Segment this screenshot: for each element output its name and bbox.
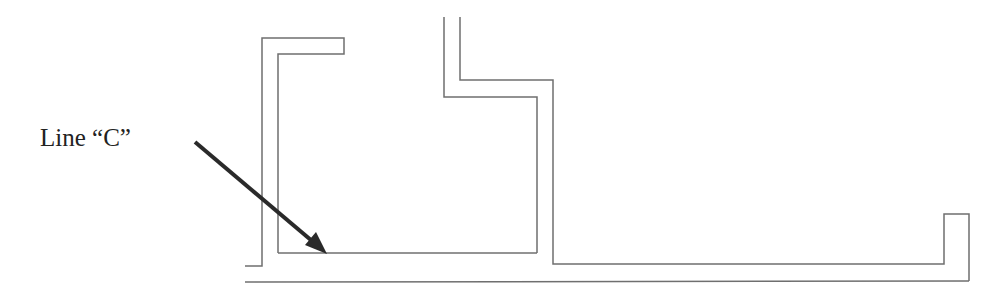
line-c-label: Line “C” bbox=[40, 123, 131, 153]
diagram-svg bbox=[0, 0, 1004, 300]
arrow-icon bbox=[195, 142, 327, 254]
bottom-outer-line bbox=[245, 281, 969, 282]
diagram-canvas: Line “C” bbox=[0, 0, 1004, 300]
left-bracket-outer bbox=[245, 38, 344, 266]
upper-middle-left-wall bbox=[444, 17, 537, 253]
